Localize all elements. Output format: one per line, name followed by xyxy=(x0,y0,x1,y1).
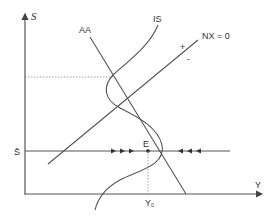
left-pointing-arrows xyxy=(178,149,201,154)
right-pointing-arrows xyxy=(111,149,134,154)
is-aa-diagram: S Y S̄ AA NX = 0 + - IS E Y 0 xyxy=(0,0,274,218)
x-axis-label: Y xyxy=(255,180,261,190)
equilibrium-label: E xyxy=(143,139,149,149)
y-axis-label: S xyxy=(31,10,37,22)
equilibrium-output-subscript: 0 xyxy=(151,202,154,208)
aa-label: AA xyxy=(79,25,91,35)
nx-minus-sign: - xyxy=(187,54,190,64)
nx-label: NX = 0 xyxy=(202,31,230,41)
nx-plus-sign: + xyxy=(180,42,185,52)
is-label: IS xyxy=(153,14,162,24)
aa-curve xyxy=(90,37,186,194)
nx-zero-line xyxy=(48,40,198,164)
fixed-rate-label: S̄ xyxy=(14,147,20,157)
